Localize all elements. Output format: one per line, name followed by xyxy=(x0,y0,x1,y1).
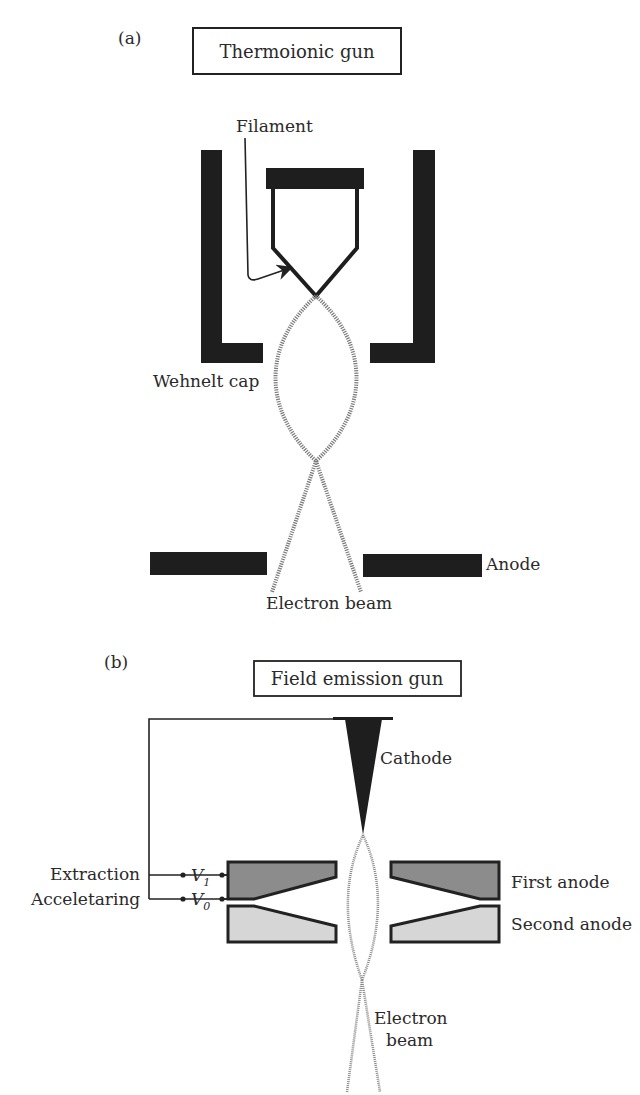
panel-b: (b) Field emission gun Cathode Extractio… xyxy=(30,652,632,1092)
filament-label: Filament xyxy=(236,116,313,136)
electron-beam-label-b-line2: beam xyxy=(386,1030,433,1050)
wehnelt-cap-left xyxy=(201,150,263,363)
first-anode-label: First anode xyxy=(511,872,610,892)
field-emission-beam xyxy=(347,835,380,1092)
filament-wire xyxy=(273,189,357,296)
electron-beam-label-a: Electron beam xyxy=(266,593,392,613)
accelerating-label: Acceletaring xyxy=(30,889,140,909)
filament-holder xyxy=(266,168,364,189)
panel-a-letter: (a) xyxy=(118,28,141,48)
thermionic-beam xyxy=(272,296,361,592)
second-anode-label: Second anode xyxy=(511,914,632,934)
panel-a: (a) Thermoionic gun Filament Wehnelt cap… xyxy=(118,28,540,613)
v0-label: V0 xyxy=(191,889,210,913)
panel-b-letter: (b) xyxy=(104,652,128,672)
second-anode-left xyxy=(228,906,336,942)
second-anode-right xyxy=(391,906,499,942)
v1-terminal-left xyxy=(180,872,185,877)
anode-label: Anode xyxy=(485,554,540,574)
cathode-label: Cathode xyxy=(380,748,452,768)
v1-label: V1 xyxy=(191,865,210,889)
panel-b-title: Field emission gun xyxy=(271,668,444,689)
wehnelt-cap-label: Wehnelt cap xyxy=(153,371,259,391)
wehnelt-cap-right xyxy=(370,150,435,363)
first-anode-left xyxy=(228,862,336,899)
electron-gun-figure: (a) Thermoionic gun Filament Wehnelt cap… xyxy=(0,0,640,1095)
extraction-label: Extraction xyxy=(50,864,140,884)
first-anode-right xyxy=(391,862,499,899)
panel-a-title: Thermoionic gun xyxy=(219,41,375,62)
anode-plate-right xyxy=(363,554,482,577)
anode-plate-left xyxy=(150,552,267,575)
v0-terminal-left xyxy=(180,896,185,901)
electron-beam-label-b-line1: Electron xyxy=(374,1008,448,1028)
cathode-tip xyxy=(345,719,382,835)
